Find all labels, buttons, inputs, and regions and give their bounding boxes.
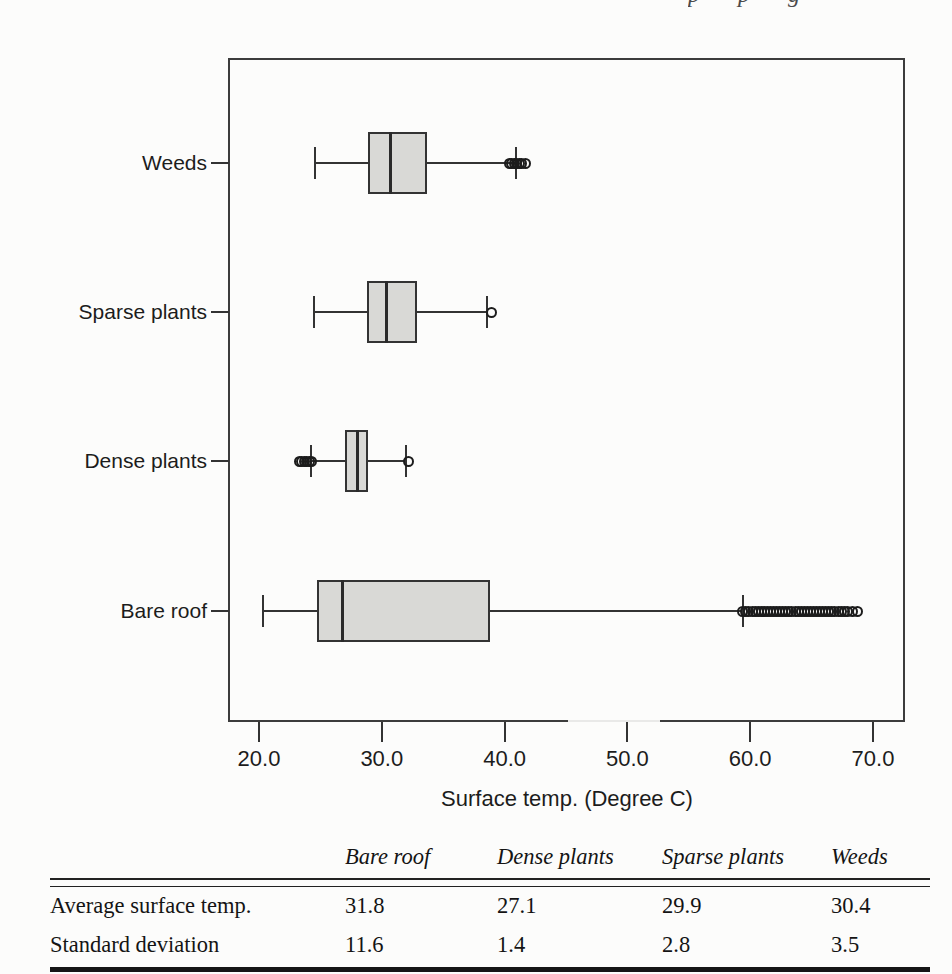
table-header-weeds: Weeds bbox=[831, 844, 930, 870]
x-axis-tick bbox=[504, 722, 506, 742]
x-axis-tick bbox=[381, 722, 383, 742]
median-line-sparse-plants bbox=[385, 281, 388, 343]
row-label-stddev: Standard deviation bbox=[50, 932, 345, 958]
table-header-sparse-plants: Sparse plants bbox=[662, 844, 831, 870]
outlier-bare-roof bbox=[852, 606, 863, 617]
x-axis-tick bbox=[749, 722, 751, 742]
summary-table: Bare roof Dense plants Sparse plants Wee… bbox=[50, 834, 930, 972]
outlier-weeds bbox=[520, 158, 531, 169]
table-bottom-rule bbox=[50, 967, 930, 972]
row-label-average: Average surface temp. bbox=[50, 893, 345, 919]
category-label-weeds: Weeds bbox=[25, 151, 207, 175]
category-tick-weeds bbox=[211, 162, 229, 164]
x-tick-label: 30.0 bbox=[340, 746, 424, 772]
outlier-sparse-plants bbox=[486, 307, 497, 318]
avg-sparse-plants: 29.9 bbox=[662, 893, 831, 919]
x-axis-tick bbox=[626, 722, 628, 742]
table-header-bare-roof: Bare roof bbox=[345, 844, 497, 870]
outlier-dense-plants bbox=[306, 456, 317, 467]
median-line-bare-roof bbox=[341, 580, 344, 642]
scanned-book-page: p p g Surface temp. (Degree C) WeedsSpar… bbox=[0, 0, 952, 974]
whisker-cap-low-bare-roof bbox=[262, 595, 264, 627]
avg-weeds: 30.4 bbox=[831, 893, 930, 919]
x-tick-label: 50.0 bbox=[585, 746, 669, 772]
category-tick-bare-roof bbox=[211, 610, 229, 612]
avg-bare-roof: 31.8 bbox=[345, 893, 497, 919]
sd-sparse-plants: 2.8 bbox=[662, 932, 831, 958]
median-line-weeds bbox=[389, 132, 392, 194]
median-line-dense-plants bbox=[356, 430, 359, 492]
x-tick-label: 70.0 bbox=[831, 746, 915, 772]
outlier-dense-plants bbox=[403, 456, 414, 467]
sd-dense-plants: 1.4 bbox=[497, 932, 662, 958]
category-tick-sparse-plants bbox=[211, 311, 229, 313]
category-label-dense-plants: Dense plants bbox=[25, 449, 207, 473]
x-tick-label: 60.0 bbox=[708, 746, 792, 772]
iqr-box-sparse-plants bbox=[367, 281, 417, 343]
whisker-cap-low-weeds bbox=[314, 147, 316, 179]
x-axis-title: Surface temp. (Degree C) bbox=[366, 786, 768, 812]
x-axis-tick bbox=[872, 722, 874, 742]
x-axis-tick bbox=[258, 722, 260, 742]
category-label-sparse-plants: Sparse plants bbox=[25, 300, 207, 324]
x-tick-label: 20.0 bbox=[217, 746, 301, 772]
x-tick-label: 40.0 bbox=[463, 746, 547, 772]
scan-whiteout-artifact bbox=[568, 716, 660, 724]
category-tick-dense-plants bbox=[211, 460, 229, 462]
sd-bare-roof: 11.6 bbox=[345, 932, 497, 958]
sd-weeds: 3.5 bbox=[831, 932, 930, 958]
whisker-cap-low-sparse-plants bbox=[313, 296, 315, 328]
category-label-bare-roof: Bare roof bbox=[25, 599, 207, 623]
table-header-dense-plants: Dense plants bbox=[497, 844, 662, 870]
table-row-stddev: Standard deviation 11.6 1.4 2.8 3.5 bbox=[50, 926, 930, 965]
table-header-rule bbox=[50, 878, 930, 887]
iqr-box-weeds bbox=[368, 132, 427, 194]
table-header-row: Bare roof Dense plants Sparse plants Wee… bbox=[50, 834, 930, 878]
avg-dense-plants: 27.1 bbox=[497, 893, 662, 919]
boxplot-chart: Surface temp. (Degree C) WeedsSparse pla… bbox=[0, 0, 952, 974]
table-row-average: Average surface temp. 31.8 27.1 29.9 30.… bbox=[50, 887, 930, 926]
